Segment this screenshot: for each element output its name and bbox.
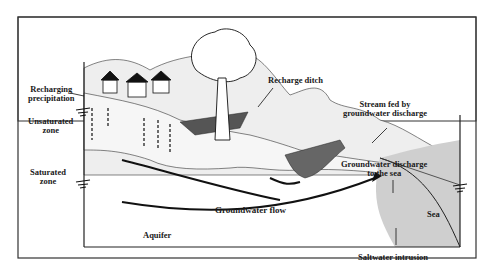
label-recharging-precipitation: Recharging precipitation [28, 85, 75, 103]
label-unsaturated-zone: Unsaturated zone [28, 117, 73, 135]
label-saltwater-intrusion: Saltwater intrusion [358, 253, 428, 262]
label-line: precipitation [28, 94, 75, 103]
groundwater-diagram [0, 0, 496, 279]
label-groundwater-flow: Groundwater flow [215, 206, 286, 215]
label-recharge-ditch: Recharge ditch [268, 76, 323, 85]
sea-region [376, 140, 460, 247]
label-line: zone [30, 177, 66, 186]
label-stream-fed: Stream fed by groundwater discharge [343, 100, 427, 118]
label-line: to the sea [341, 169, 427, 178]
label-saturated-zone: Saturated zone [30, 168, 66, 186]
houses [101, 71, 171, 97]
label-line: zone [28, 126, 73, 135]
label-sea: Sea [427, 210, 440, 219]
label-aquifer: Aquifer [143, 231, 171, 240]
flow-arrow-2 [270, 178, 300, 184]
label-line: groundwater discharge [343, 109, 427, 118]
label-groundwater-discharge-sea: Groundwater discharge to the sea [341, 160, 427, 178]
